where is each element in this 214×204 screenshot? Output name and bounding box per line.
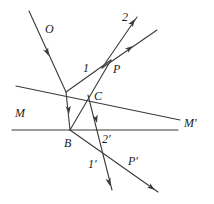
point-label-Mp: M′ xyxy=(183,116,197,130)
labels-group: O21PCMM′B2′1′P′ xyxy=(14,10,197,171)
point-label-M: M xyxy=(14,106,26,120)
point-label-B: B xyxy=(64,136,72,150)
ray-diagram-canvas: O21PCMM′B2′1′P′ xyxy=(0,0,214,204)
arrowhead-on-incident-ray-O xyxy=(43,48,51,58)
point-label-1p: 1′ xyxy=(88,157,97,171)
ray-B-to-P xyxy=(70,60,111,130)
point-label-C: C xyxy=(94,89,103,103)
ray-2-outgoing xyxy=(102,17,137,68)
point-label-P: P xyxy=(112,62,121,76)
point-label-1: 1 xyxy=(83,61,89,75)
point-label-Pp: P′ xyxy=(127,154,138,168)
point-label-2: 2 xyxy=(122,10,128,24)
ray-B-to-P-prime xyxy=(70,130,158,192)
point-label-O: O xyxy=(45,22,54,36)
geometry-figure: O21PCMM′B2′1′P′ xyxy=(0,0,214,204)
arrowheads-group xyxy=(43,17,156,192)
arrowhead-toward-B xyxy=(65,106,71,115)
point-label-2p: 2′ xyxy=(102,132,111,146)
